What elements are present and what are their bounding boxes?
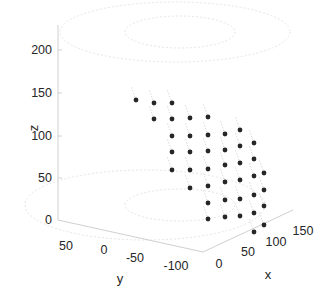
data-point [252, 193, 257, 198]
data-point [170, 168, 175, 173]
y-axis-line [58, 220, 203, 252]
tick-label: 150 [293, 224, 314, 238]
data-point [223, 163, 228, 168]
data-point [188, 168, 193, 173]
tick-label: 50 [38, 171, 52, 185]
data-point [188, 116, 193, 121]
z-axis-label: z [26, 125, 41, 132]
data-point [262, 223, 267, 228]
tick-label: 100 [266, 235, 287, 249]
tick-label: -100 [163, 259, 188, 273]
data-point [206, 167, 211, 172]
x-tick-labels: 050100150 [216, 224, 314, 271]
data-point [252, 211, 257, 216]
data-point [252, 157, 257, 162]
tick-label: 50 [241, 245, 255, 259]
data-point [206, 133, 211, 138]
x-axis-label: x [265, 267, 272, 282]
data-point [206, 149, 211, 154]
data-point [206, 184, 211, 189]
data-point [134, 98, 139, 103]
data-point [238, 161, 243, 166]
data-point [223, 132, 228, 137]
tick-label: 150 [31, 86, 52, 100]
data-point [206, 217, 211, 222]
data-point [252, 141, 257, 146]
data-point [223, 215, 228, 220]
data-point [170, 150, 175, 155]
tick-label: 0 [45, 213, 52, 227]
tick-label: 0 [216, 257, 223, 271]
data-point [170, 134, 175, 139]
data-point [223, 148, 228, 153]
data-point [223, 198, 228, 203]
data-point [223, 180, 228, 185]
data-point [238, 197, 243, 202]
data-point [170, 101, 175, 106]
data-point [206, 115, 211, 120]
z-ticks [58, 50, 62, 178]
data-point [152, 117, 157, 122]
tick-label: -50 [126, 251, 144, 265]
data-point [238, 214, 243, 219]
data-point [188, 150, 193, 155]
decoration-ellipses [25, 2, 290, 240]
data-point [262, 204, 267, 209]
data-point [262, 171, 267, 176]
quiver-arrows [131, 86, 264, 232]
z-tick-labels: 200150100500 [31, 43, 52, 227]
data-points [134, 98, 267, 235]
3d-scatter-plot: 200150100500 500-50-100 050100150 z y x [0, 0, 320, 299]
data-point [238, 144, 243, 149]
y-axis-label: y [117, 271, 124, 286]
data-point [188, 134, 193, 139]
data-point [262, 188, 267, 193]
data-point [188, 186, 193, 191]
data-point [238, 178, 243, 183]
data-point [238, 128, 243, 133]
axes-lines [58, 25, 293, 252]
data-point [206, 201, 211, 206]
data-point [252, 230, 257, 235]
tick-label: 200 [31, 43, 52, 57]
data-point [152, 101, 157, 106]
data-point [170, 117, 175, 122]
tick-label: 0 [101, 243, 108, 257]
tick-label: 50 [59, 239, 73, 253]
data-point [252, 174, 257, 179]
